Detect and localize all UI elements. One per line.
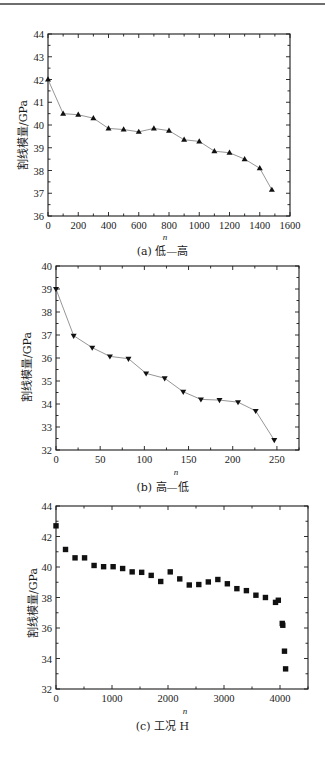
x-tick-label: 0 [53, 693, 58, 704]
data-point-marker [168, 569, 173, 574]
x-tick-label: 4000 [270, 693, 291, 704]
y-tick-label: 44 [42, 501, 53, 512]
data-point-marker [129, 569, 134, 574]
data-point-marker [158, 579, 163, 584]
data-point-marker [215, 577, 220, 582]
x-tick-label: 3000 [214, 693, 235, 704]
data-point-marker [72, 555, 77, 560]
x-tick-label: 2000 [158, 693, 179, 704]
data-point-marker [276, 598, 281, 603]
data-point-marker [149, 573, 154, 578]
chart-c-x-axis-label: n [175, 706, 195, 716]
data-point-marker [280, 623, 285, 628]
data-point-marker [283, 666, 288, 671]
chart-c-condition-h: 0100020003000400032343638404244 割线模量/GPa… [0, 0, 325, 759]
data-point-marker [177, 576, 182, 581]
data-point-marker [82, 555, 87, 560]
data-point-marker [110, 564, 115, 569]
data-point-marker [91, 563, 96, 568]
data-point-marker [253, 593, 258, 598]
y-tick-label: 32 [42, 684, 53, 695]
data-point-marker [53, 523, 58, 528]
data-point-marker [187, 582, 192, 587]
chart-c-y-axis-label: 割线模量/GPa [24, 568, 40, 638]
x-tick-label: 1000 [102, 693, 123, 704]
chart-c-plot: 0100020003000400032343638404244 [0, 0, 325, 759]
y-tick-label: 42 [42, 532, 53, 543]
data-point-marker [101, 564, 106, 569]
data-point-marker [234, 586, 239, 591]
data-point-marker [225, 581, 230, 586]
chart-c-caption: (c) 工况 H [0, 717, 325, 733]
data-point-marker [244, 588, 249, 593]
data-point-marker [120, 566, 125, 571]
data-point-marker [139, 570, 144, 575]
data-point-marker [63, 547, 68, 552]
data-point-marker [196, 582, 201, 587]
data-point-marker [282, 648, 287, 653]
y-tick-label: 34 [42, 654, 53, 665]
data-point-marker [263, 595, 268, 600]
y-tick-label: 38 [42, 593, 53, 604]
data-point-marker [206, 579, 211, 584]
y-tick-label: 40 [42, 562, 53, 573]
y-tick-label: 36 [42, 623, 53, 634]
plot-frame [56, 506, 308, 689]
